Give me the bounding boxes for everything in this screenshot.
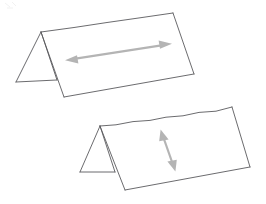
- lower-prism-front-face: [100, 107, 250, 190]
- corner-smudge-icon: [5, 2, 16, 8]
- upper-prism: [16, 13, 194, 97]
- prism-diagram: [0, 0, 266, 204]
- figure-canvas: [0, 0, 266, 204]
- upper-prism-front-face: [41, 13, 194, 97]
- lower-prism: [80, 107, 250, 190]
